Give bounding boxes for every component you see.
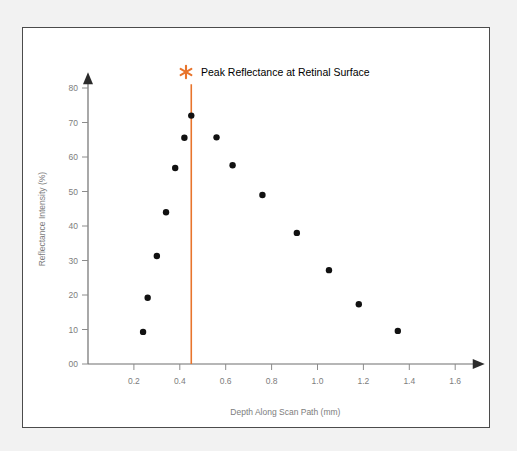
scatter-plot: 0.20.40.60.81.01.21.41.60010203040506070… (23, 28, 491, 429)
x-axis-title: Depth Along Scan Path (mm) (230, 407, 340, 417)
axis-titles-group: Depth Along Scan Path (mm)Reflectance In… (37, 172, 341, 417)
x-axis-tick-label: 0.4 (174, 376, 186, 386)
plot-area: 0.20.40.60.81.01.21.41.60010203040506070… (23, 28, 491, 429)
tick-labels-group: 0.20.40.60.81.01.21.41.60010203040506070… (69, 83, 462, 386)
data-point (395, 328, 401, 334)
data-point (326, 267, 332, 273)
ticks-group (82, 88, 455, 370)
x-axis-arrow-icon (473, 359, 485, 369)
data-point (172, 165, 178, 171)
x-axis-tick-label: 1.6 (449, 376, 461, 386)
data-point (154, 253, 160, 259)
y-axis-tick-label: 10 (69, 325, 79, 335)
data-point (356, 301, 362, 307)
data-point (163, 209, 169, 215)
data-point (144, 295, 150, 301)
y-axis-tick-label: 40 (69, 221, 79, 231)
x-axis-tick-label: 1.0 (312, 376, 324, 386)
x-axis-tick-label: 1.2 (357, 376, 369, 386)
data-point (229, 162, 235, 168)
figure-page: Peak Reflectance at Retinal Surface 0.20… (0, 0, 517, 451)
y-axis-arrow-icon (83, 72, 93, 84)
figure-frame: Peak Reflectance at Retinal Surface 0.20… (22, 27, 490, 428)
data-points-group (140, 112, 401, 335)
x-axis-tick-label: 1.4 (403, 376, 415, 386)
y-axis-tick-label: 70 (69, 118, 79, 128)
y-axis-tick-label: 60 (69, 152, 79, 162)
x-axis-tick-label: 0.2 (128, 376, 140, 386)
data-point (259, 192, 265, 198)
data-point (140, 329, 146, 335)
data-point (188, 112, 194, 118)
y-axis-title: Reflectance Intensity (%) (37, 172, 47, 267)
y-axis-tick-label: 50 (69, 187, 79, 197)
x-axis-tick-label: 0.6 (220, 376, 232, 386)
y-axis-tick-label: 00 (69, 359, 79, 369)
axes-group (83, 72, 485, 369)
data-point (294, 230, 300, 236)
y-axis-tick-label: 80 (69, 83, 79, 93)
data-point (213, 134, 219, 140)
y-axis-tick-label: 30 (69, 256, 79, 266)
data-point (181, 134, 187, 140)
y-axis-tick-label: 20 (69, 290, 79, 300)
x-axis-tick-label: 0.8 (266, 376, 278, 386)
